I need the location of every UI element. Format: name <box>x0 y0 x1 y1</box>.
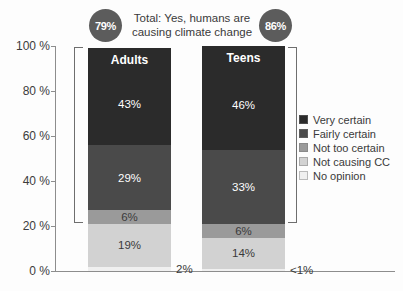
legend-swatch-icon <box>299 143 308 152</box>
legend-item-label: Very certain <box>313 114 371 126</box>
y-axis-tick <box>51 136 56 137</box>
y-axis-tick <box>51 226 56 227</box>
bar-segment: 43%Adults <box>88 48 171 145</box>
bar-segment-value: 33% <box>232 181 255 193</box>
legend-swatch-icon <box>299 171 308 180</box>
legend-item: Not causing CC <box>299 155 390 169</box>
bar-segment: 19% <box>88 224 171 267</box>
teens-total-badge: 86% <box>259 9 292 42</box>
legend-item: Not too certain <box>299 141 390 155</box>
bar-segment: 14% <box>202 238 285 270</box>
bar-segment: 29% <box>88 145 171 210</box>
y-axis-tick-label: 0 % <box>4 264 50 278</box>
bar-adults: 43%Adults29%6%19%2% <box>88 48 171 271</box>
bar-segment-value: 29% <box>118 172 141 184</box>
bar-segment: 6% <box>88 210 171 224</box>
y-axis-tick <box>51 46 56 47</box>
legend-swatch-icon <box>299 129 308 138</box>
bar-segment-value: 43% <box>118 98 141 110</box>
y-axis-labels: 100 %80 %60 %40 %20 %0 % <box>0 0 50 291</box>
y-axis-tick-label: 40 % <box>4 174 50 188</box>
bar-teens: 46%Teens33%6%14%<1% <box>202 46 285 271</box>
bar-segment-value: 6% <box>121 211 138 223</box>
adults-total-badge: 79% <box>89 9 122 42</box>
chart-title: Total: Yes, humans are causing climate c… <box>128 11 256 39</box>
bar-segment-value: 19% <box>118 239 141 251</box>
bar-segment-value: 2% <box>176 263 193 275</box>
climate-change-stacked-bar-chart: 79% Total: Yes, humans are causing clima… <box>0 0 403 291</box>
adults-total-bracket <box>74 47 83 223</box>
y-axis-tick <box>51 271 56 272</box>
legend-item: Very certain <box>299 113 390 127</box>
y-axis-tick-label: 20 % <box>4 219 50 233</box>
y-axis-tick-label: 80 % <box>4 84 50 98</box>
bar-segment-value: 46% <box>232 99 255 111</box>
legend: Very certainFairly certainNot too certai… <box>299 113 390 183</box>
legend-item-label: Not too certain <box>313 142 385 154</box>
legend-item: No opinion <box>299 169 390 183</box>
legend-item-label: No opinion <box>313 170 366 182</box>
y-axis-tick-label: 60 % <box>4 129 50 143</box>
bar-segment: 6% <box>202 224 285 238</box>
legend-item-label: Fairly certain <box>313 128 376 140</box>
bar-segment: 46%Teens <box>202 46 285 150</box>
bar-segment-value: 14% <box>232 247 255 259</box>
y-axis-tick <box>51 91 56 92</box>
bar-segment-value: 6% <box>235 225 252 237</box>
y-axis-tick-label: 100 % <box>4 39 50 53</box>
bar-group-title: Adults <box>88 53 171 67</box>
x-axis-line <box>55 271 395 272</box>
bar-group-title: Teens <box>202 51 285 65</box>
legend-item-label: Not causing CC <box>313 156 390 168</box>
bar-segment: 2% <box>88 267 171 272</box>
legend-item: Fairly certain <box>299 127 390 141</box>
teens-total-bracket <box>288 47 297 223</box>
bar-segment: <1% <box>202 269 285 271</box>
bar-segment: 33% <box>202 150 285 224</box>
y-axis-tick <box>51 181 56 182</box>
bar-segment-value: <1% <box>290 264 313 276</box>
legend-swatch-icon <box>299 115 308 124</box>
legend-swatch-icon <box>299 157 308 166</box>
y-axis-line <box>55 46 56 272</box>
